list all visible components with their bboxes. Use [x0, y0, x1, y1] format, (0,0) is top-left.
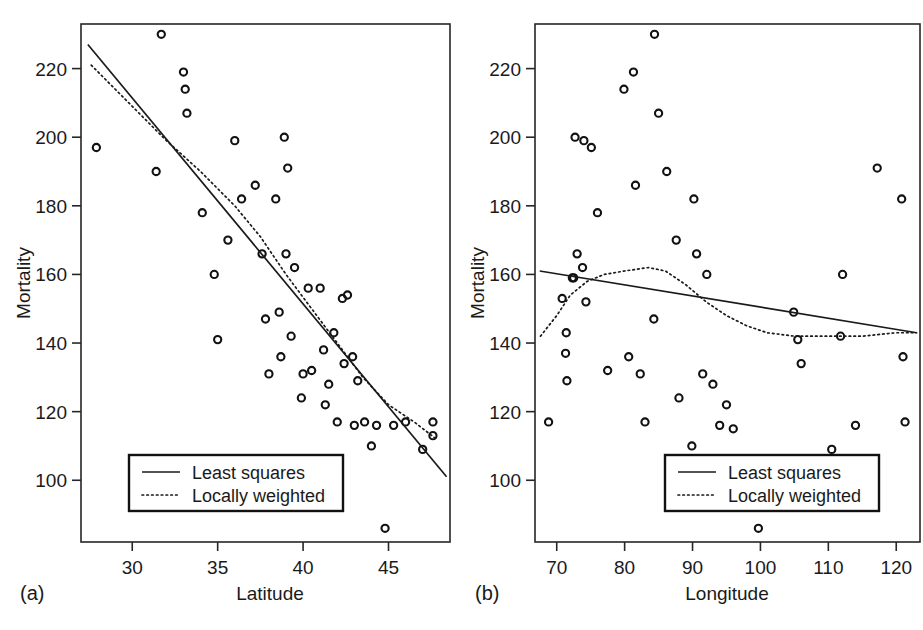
scatter-point	[277, 353, 284, 360]
y-tick-label: 160	[35, 264, 67, 285]
scatter-point	[852, 422, 859, 429]
scatter-point	[330, 329, 337, 336]
x-tick-label: 45	[378, 557, 399, 578]
scatter-point	[180, 68, 187, 75]
y-tick-label: 160	[489, 264, 521, 285]
scatter-point	[901, 418, 908, 425]
scatter-point	[325, 381, 332, 388]
y-tick-label: 180	[489, 196, 521, 217]
scatter-point	[874, 164, 881, 171]
panel-a-x-axis-title: Latitude	[236, 583, 304, 604]
panel-b-svg: 100120140160180200220 708090100110120 Mo…	[455, 0, 923, 630]
x-tick-label: 30	[122, 557, 143, 578]
scatter-point	[709, 381, 716, 388]
panel-b-longitude: 100120140160180200220 708090100110120 Mo…	[455, 0, 923, 630]
scatter-point	[368, 442, 375, 449]
scatter-point	[381, 525, 388, 532]
y-tick-label: 200	[489, 127, 521, 148]
scatter-point	[594, 209, 601, 216]
scatter-point	[703, 271, 710, 278]
scatter-point	[361, 418, 368, 425]
scatter-point	[798, 360, 805, 367]
panel-b-y-axis-title: Mortality	[467, 247, 488, 319]
scatter-point	[322, 401, 329, 408]
scatter-point	[651, 31, 658, 38]
scatter-point	[351, 422, 358, 429]
scatter-point	[308, 367, 315, 374]
panel-a-legend-label-least-squares: Least squares	[192, 463, 305, 483]
panel-a-caption: (a)	[20, 582, 44, 604]
scatter-point	[334, 418, 341, 425]
scatter-point	[699, 370, 706, 377]
scatter-point	[755, 525, 762, 532]
scatter-point	[340, 360, 347, 367]
y-tick-label: 100	[489, 470, 521, 491]
y-tick-label: 120	[489, 402, 521, 423]
scatter-point	[305, 285, 312, 292]
panel-a-latitude: 100120140160180200220 30354045 Mortality…	[0, 0, 460, 630]
scatter-point	[262, 315, 269, 322]
panel-b-legend: Least squares Locally weighted	[665, 455, 879, 511]
scatter-point	[716, 422, 723, 429]
scatter-point	[562, 350, 569, 357]
scatter-point	[730, 425, 737, 432]
scatter-point	[545, 418, 552, 425]
scatter-point	[637, 370, 644, 377]
scatter-point	[630, 68, 637, 75]
y-tick-label: 100	[35, 470, 67, 491]
scatter-point	[252, 182, 259, 189]
y-tick-label: 180	[35, 196, 67, 217]
panel-b-x-axis: 708090100110120	[546, 542, 912, 578]
y-tick-label: 220	[489, 59, 521, 80]
y-tick-label: 220	[35, 59, 67, 80]
x-tick-label: 120	[880, 557, 912, 578]
x-tick-label: 80	[614, 557, 635, 578]
scatter-point	[183, 110, 190, 117]
scatter-point	[272, 195, 279, 202]
locally-weighted-fit-line	[91, 65, 436, 439]
scatter-point	[288, 333, 295, 340]
x-tick-label: 40	[293, 557, 314, 578]
scatter-point	[632, 182, 639, 189]
scatter-point	[588, 144, 595, 151]
panel-a-fit-lines	[88, 45, 447, 477]
scatter-point	[373, 422, 380, 429]
panel-b-x-axis-title: Longitude	[685, 583, 768, 604]
scatter-point	[265, 370, 272, 377]
panel-a-svg: 100120140160180200220 30354045 Mortality…	[0, 0, 460, 630]
panel-b-legend-label-least-squares: Least squares	[728, 463, 841, 483]
scatter-point	[604, 367, 611, 374]
scatter-point	[429, 418, 436, 425]
scatter-point	[641, 418, 648, 425]
scatter-point	[580, 137, 587, 144]
x-tick-label: 100	[745, 557, 777, 578]
scatter-point	[214, 336, 221, 343]
scatter-point	[299, 370, 306, 377]
scatter-point	[690, 195, 697, 202]
scatter-point	[828, 446, 835, 453]
scatter-point	[563, 329, 570, 336]
scatter-point	[93, 144, 100, 151]
scatter-point	[291, 264, 298, 271]
x-tick-label: 70	[546, 557, 567, 578]
scatter-point	[898, 195, 905, 202]
scatter-point	[650, 315, 657, 322]
scatter-point	[153, 168, 160, 175]
scatter-point	[571, 134, 578, 141]
panel-b-legend-label-locally-weighted: Locally weighted	[728, 486, 861, 506]
scatter-point	[673, 237, 680, 244]
panel-a-x-axis: 30354045	[122, 542, 399, 578]
panel-b-y-axis: 100120140160180200220	[489, 59, 535, 492]
x-tick-label: 90	[682, 557, 703, 578]
scatter-point	[282, 250, 289, 257]
scatter-point	[839, 271, 846, 278]
scatter-point	[238, 195, 245, 202]
scatter-point	[663, 168, 670, 175]
panel-a-y-axis-title: Mortality	[13, 247, 34, 319]
panel-a-legend: Least squares Locally weighted	[129, 455, 343, 511]
y-tick-label: 140	[489, 333, 521, 354]
x-tick-label: 110	[813, 557, 843, 578]
y-tick-label: 200	[35, 127, 67, 148]
scatter-point	[317, 285, 324, 292]
scatter-point	[579, 264, 586, 271]
